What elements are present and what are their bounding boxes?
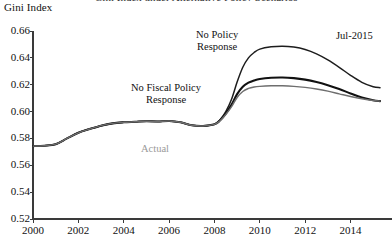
x-tick-label: 2010 [240,224,280,236]
annotation-jul-2015: Jul-2015 [336,30,373,42]
y-tick-label: 0.66 [0,24,30,36]
y-tick-label: 0.56 [0,158,30,170]
y-tick-label: 0.52 [0,212,30,224]
annotation-no-policy-response: No Policy Response [196,29,238,53]
x-tick-label: 2000 [13,224,53,236]
x-tick-label: 2006 [149,224,189,236]
annotation-no-fiscal-policy-response: No Fiscal Policy Response [131,82,201,106]
chart-container: Gini Index under Alternative Policy Scen… [0,0,392,247]
y-tick-label: 0.58 [0,131,30,143]
tick-marks [30,31,351,223]
series-lines [33,46,380,146]
y-tick-label: 0.62 [0,78,30,90]
y-tick-label: 0.60 [0,105,30,117]
series-line [33,77,380,146]
x-tick-label: 2004 [104,224,144,236]
y-tick-label: 0.64 [0,51,30,63]
annotation-actual: Actual [141,143,169,155]
x-tick-label: 2008 [194,224,234,236]
x-tick-label: 2012 [285,224,325,236]
y-tick-label: 0.54 [0,185,30,197]
x-tick-label: 2002 [58,224,98,236]
x-tick-label: 2014 [331,224,371,236]
series-line [33,86,380,146]
